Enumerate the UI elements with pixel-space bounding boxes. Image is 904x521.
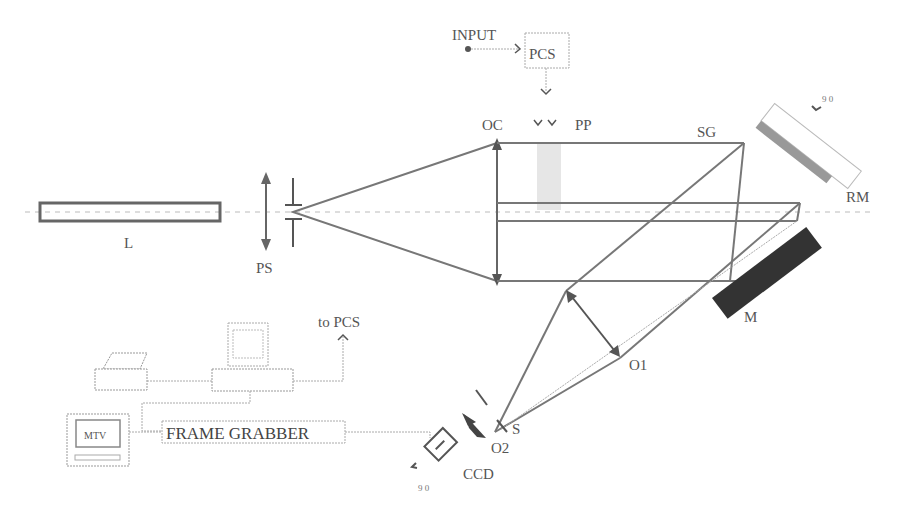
label-pp: PP <box>575 117 592 133</box>
label-m: M <box>744 309 757 325</box>
input-dot <box>465 46 471 52</box>
o1-lens-icon <box>566 290 620 357</box>
printer-icon <box>95 353 147 390</box>
label-input: INPUT <box>452 27 496 43</box>
label-ps: PS <box>256 260 273 276</box>
phase-plate <box>537 144 561 210</box>
computer-icon <box>212 323 293 391</box>
label-pcs: PCS <box>529 46 556 62</box>
label-rotation-rm: 9 0 <box>822 94 834 104</box>
o2-lens-icon <box>462 413 486 438</box>
optical-diagram: L PS OC PP INPUT PCS SG RM 9 0 M O1 S O2… <box>0 0 904 521</box>
label-l: L <box>124 235 133 251</box>
label-o2: O2 <box>491 440 509 456</box>
label-rotation-ccd: 9 0 <box>418 483 430 493</box>
label-ccd: CCD <box>463 466 494 482</box>
ccd-camera-icon <box>424 428 457 461</box>
label-o1: O1 <box>629 357 647 373</box>
reference-mirror <box>756 103 862 195</box>
label-oc: OC <box>482 117 503 133</box>
mirror-m <box>712 227 822 319</box>
label-rm: RM <box>846 189 869 205</box>
label-sg: SG <box>697 124 716 140</box>
label-s: S <box>512 421 520 437</box>
oc-lens-icon <box>492 138 502 286</box>
label-frame-grabber: FRAME GRABBER <box>166 424 310 443</box>
ccd-rotation-icon <box>412 463 417 468</box>
rotation-icon <box>812 106 821 110</box>
label-to-pcs: to PCS <box>318 314 360 330</box>
slit-icon <box>476 390 507 432</box>
label-mtv: MTV <box>84 430 107 441</box>
